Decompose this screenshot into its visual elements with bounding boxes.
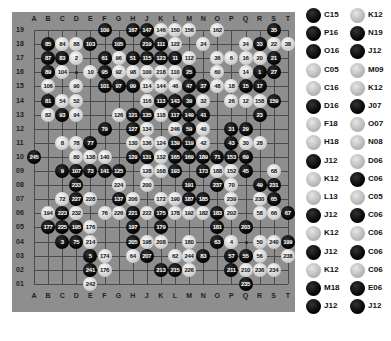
black-stone: 57	[224, 249, 238, 263]
black-stone: 225	[55, 220, 69, 234]
black-stone-icon	[306, 154, 321, 169]
white-stone: 38	[281, 37, 295, 51]
black-stone-icon	[350, 44, 365, 59]
black-stone: 105	[112, 37, 126, 51]
column-label: D	[70, 292, 82, 300]
white-stone: 244	[182, 249, 196, 263]
move-coordinate: D16	[324, 101, 339, 110]
black-stone: 111	[154, 37, 168, 51]
black-stone: 179	[154, 220, 168, 234]
white-stone: 226	[182, 263, 196, 277]
move-coordinate: J07	[368, 101, 381, 110]
white-stone-icon	[350, 226, 365, 241]
column-label: Q	[240, 292, 252, 300]
black-stone: 69	[239, 150, 253, 164]
row-label: 01	[14, 280, 26, 288]
column-label: L	[169, 292, 181, 300]
white-stone: 70	[224, 178, 238, 192]
black-stone: 1	[253, 65, 267, 79]
column-label: R	[254, 15, 266, 23]
white-stone: 6	[224, 51, 238, 65]
black-stone: 135	[140, 108, 154, 122]
move-list-panel: C15K12P16N19O16J12C05M09C16K12D16J07F18O…	[300, 0, 391, 341]
row-label: 12	[14, 125, 26, 133]
white-stone: 26	[224, 94, 238, 108]
white-stone: 202	[224, 206, 238, 220]
white-stone: 40	[196, 122, 210, 136]
column-label: E	[84, 15, 96, 23]
white-stone: 76	[98, 206, 112, 220]
column-label: O	[211, 292, 223, 300]
black-stone: 215	[168, 263, 182, 277]
move-coordinate: K12	[324, 228, 339, 237]
black-stone: 223	[55, 206, 69, 220]
white-stone: 232	[69, 206, 83, 220]
column-label: F	[99, 292, 111, 300]
white-stone: 72	[55, 192, 69, 206]
white-stone: 58	[253, 206, 267, 220]
white-stone: 12	[239, 94, 253, 108]
column-label: R	[254, 292, 266, 300]
white-stone: 42	[196, 136, 210, 150]
white-stone: 28	[253, 136, 267, 150]
black-stone: 199	[281, 235, 295, 249]
move-coordinate: N08	[368, 137, 383, 146]
black-stone: 231	[267, 178, 281, 192]
move-coordinate: J12	[324, 156, 337, 165]
white-stone-icon	[306, 226, 321, 241]
row-label: 05	[14, 223, 26, 231]
white-stone: 62	[168, 249, 182, 263]
white-stone: 190	[168, 192, 182, 206]
white-stone: 112	[182, 51, 196, 65]
black-stone: 61	[98, 51, 112, 65]
black-stone: 33	[253, 37, 267, 51]
white-stone: 4	[224, 235, 238, 249]
white-stone: 162	[210, 23, 224, 37]
column-label: J	[141, 292, 153, 300]
white-stone: 176	[83, 220, 97, 234]
row-label: 03	[14, 252, 26, 260]
white-stone: 158	[253, 94, 267, 108]
white-stone: 46	[168, 79, 182, 93]
column-label: B	[42, 292, 54, 300]
black-stone: 211	[224, 263, 238, 277]
black-stone: 205	[126, 235, 140, 249]
column-label: N	[197, 292, 209, 300]
white-stone: 54	[55, 94, 69, 108]
move-coordinate: M18	[324, 283, 340, 292]
black-stone: 77	[83, 136, 97, 150]
white-stone: 246	[168, 122, 182, 136]
white-stone: 228	[83, 192, 97, 206]
row-label: 13	[14, 111, 26, 119]
black-stone: 37	[196, 79, 210, 93]
black-stone: 17	[253, 79, 267, 93]
black-stone: 185	[196, 192, 210, 206]
white-stone: 206	[126, 192, 140, 206]
black-stone-icon	[306, 8, 321, 23]
row-label: 02	[14, 266, 26, 274]
move-coordinate: M09	[368, 65, 384, 74]
black-stone: 165	[168, 150, 182, 164]
column-label: F	[99, 15, 111, 23]
white-stone: 52	[69, 94, 83, 108]
white-stone: 90	[69, 79, 83, 93]
column-label: P	[225, 15, 237, 23]
black-stone-icon	[350, 299, 365, 314]
move-coordinate: O16	[324, 46, 339, 55]
black-stone: 181	[210, 220, 224, 234]
white-stone-icon	[306, 117, 321, 132]
black-stone: 93	[55, 108, 69, 122]
white-stone: 208	[154, 235, 168, 249]
column-label: B	[42, 15, 54, 23]
black-stone: 245	[27, 150, 41, 164]
black-stone: 177	[41, 220, 55, 234]
white-stone-icon	[306, 190, 321, 205]
white-stone-icon	[350, 135, 365, 150]
move-coordinate: J12	[324, 210, 337, 219]
black-stone-icon	[350, 26, 365, 41]
white-stone-icon	[350, 154, 365, 169]
move-coordinate: F18	[324, 119, 338, 128]
move-coordinate: C06	[368, 265, 383, 274]
row-label: 17	[14, 54, 26, 62]
black-stone-icon	[306, 26, 321, 41]
